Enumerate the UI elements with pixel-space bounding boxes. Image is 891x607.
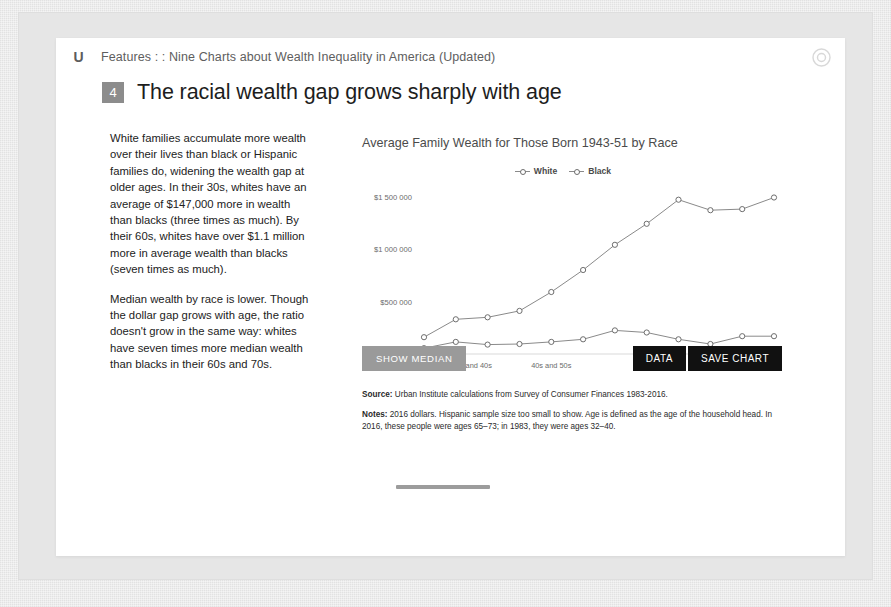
source-text: Urban Institute calculations from Survey… bbox=[392, 390, 667, 399]
data-point-marker[interactable] bbox=[676, 197, 681, 202]
data-point-marker[interactable] bbox=[771, 195, 776, 200]
legend-marker-icon bbox=[569, 168, 584, 175]
data-point-marker[interactable] bbox=[485, 315, 490, 320]
article-card: U Features : : Nine Charts about Wealth … bbox=[56, 38, 845, 556]
chart-title: Average Family Wealth for Those Born 194… bbox=[362, 136, 782, 150]
data-point-marker[interactable] bbox=[612, 328, 617, 333]
paragraph-2: Median wealth by race is lower. Though t… bbox=[110, 291, 314, 373]
legend-label-white: White bbox=[534, 166, 557, 176]
data-point-marker[interactable] bbox=[644, 330, 649, 335]
data-point-marker[interactable] bbox=[708, 208, 713, 213]
data-point-marker[interactable] bbox=[771, 334, 776, 339]
data-point-marker[interactable] bbox=[581, 267, 586, 272]
article-text-column: White families accumulate more wealth ov… bbox=[110, 130, 314, 386]
data-point-marker[interactable] bbox=[549, 289, 554, 294]
legend-item-black[interactable]: Black bbox=[569, 166, 611, 176]
data-point-marker[interactable] bbox=[421, 335, 426, 340]
data-point-marker[interactable] bbox=[644, 221, 649, 226]
save-chart-button[interactable]: SAVE CHART bbox=[688, 346, 782, 371]
data-point-marker[interactable] bbox=[453, 339, 458, 344]
data-point-marker[interactable] bbox=[612, 242, 617, 247]
notes-note: Notes: 2016 dollars. Hispanic sample siz… bbox=[362, 409, 782, 433]
data-point-marker[interactable] bbox=[740, 207, 745, 212]
show-median-button[interactable]: SHOW MEDIAN bbox=[362, 346, 466, 371]
chart-number-badge: 4 bbox=[102, 82, 124, 103]
legend-marker-icon bbox=[515, 168, 530, 175]
data-point-marker[interactable] bbox=[581, 337, 586, 342]
data-button[interactable]: DATA bbox=[633, 346, 686, 371]
breadcrumb[interactable]: Features : : Nine Charts about Wealth In… bbox=[101, 50, 495, 64]
data-point-marker[interactable] bbox=[676, 337, 681, 342]
horizontal-scrollbar[interactable] bbox=[396, 485, 490, 489]
notes-label: Notes: bbox=[362, 410, 387, 419]
data-point-marker[interactable] bbox=[517, 308, 522, 313]
chart-export-buttons: DATA SAVE CHART bbox=[633, 346, 782, 371]
share-circle-icon[interactable] bbox=[812, 48, 831, 67]
paragraph-1: White families accumulate more wealth ov… bbox=[110, 130, 314, 278]
header-bar: U Features : : Nine Charts about Wealth … bbox=[56, 38, 845, 77]
chart-actions: SHOW MEDIAN DATA SAVE CHART bbox=[362, 346, 782, 370]
source-note: Source: Urban Institute calculations fro… bbox=[362, 389, 782, 401]
data-point-marker[interactable] bbox=[549, 339, 554, 344]
source-label: Source: bbox=[362, 390, 392, 399]
title-row: 4 The racial wealth gap grows sharply wi… bbox=[102, 80, 562, 105]
y-axis-tick-label: $1 500 000 bbox=[374, 193, 412, 202]
chart-legend: White Black bbox=[344, 166, 782, 176]
data-point-marker[interactable] bbox=[453, 317, 458, 322]
notes-text: 2016 dollars. Hispanic sample size too s… bbox=[362, 410, 772, 431]
legend-item-white[interactable]: White bbox=[515, 166, 557, 176]
data-point-marker[interactable] bbox=[740, 334, 745, 339]
series-line-white bbox=[424, 198, 774, 338]
y-axis-tick-label: $1 000 000 bbox=[374, 245, 412, 254]
page-title: The racial wealth gap grows sharply with… bbox=[137, 80, 562, 105]
legend-label-black: Black bbox=[588, 166, 611, 176]
urban-institute-logo[interactable]: U bbox=[70, 49, 87, 66]
y-axis-tick-label: $500 000 bbox=[380, 298, 412, 307]
